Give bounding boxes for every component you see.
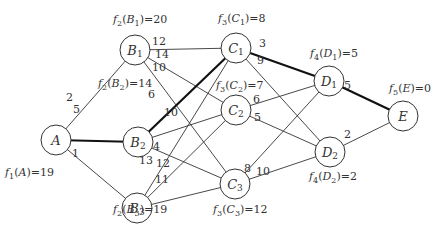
edge-weight-d2-e: 2: [344, 128, 351, 141]
edge-weight-b2-c2: 10: [164, 106, 178, 119]
node-b1: B1: [120, 35, 150, 65]
edge-weight-c2-d1: 6: [253, 93, 260, 106]
node-d1: D1: [314, 66, 344, 96]
shortest-path-diagram: AB1B2B3C1C2C3D1D2E 251121410610413121139…: [0, 0, 439, 231]
edge-weight-c1-d1: 3: [259, 37, 266, 50]
edge-weight-c1-d2: 9: [257, 54, 264, 67]
node-label: A: [50, 133, 60, 148]
edge-weight-c3-d2: 10: [256, 165, 270, 178]
edge-weight-a-b2: 5: [73, 103, 80, 116]
edge-weight-b3-c3: 11: [155, 173, 169, 186]
labels-layer: 2511214106104131211396581052f1(A)=19f2(B…: [4, 12, 431, 218]
f-value-d2: f4(D2)=2: [308, 170, 357, 185]
edge-weight-c3-d1: 8: [244, 162, 251, 175]
nodes-layer: AB1B2B3C1C2C3D1D2E: [41, 33, 418, 223]
node-label: E: [397, 109, 408, 124]
edge-weight-b1-c1: 12: [152, 35, 166, 48]
node-e: E: [388, 101, 418, 131]
node-c1: C1: [221, 33, 251, 63]
edge-weight-b1-c2: 14: [155, 48, 169, 61]
f-value-b3: f2(B3)=19: [112, 203, 167, 218]
node-d2: D2: [315, 137, 345, 167]
f-value-c3: f3(C3)=12: [212, 203, 268, 218]
edge-weight-b3-c2: 12: [156, 157, 170, 170]
f-value-b1: f2(B1)=20: [112, 13, 167, 28]
node-a: A: [41, 125, 71, 155]
f-value-d1: f4(D1)=5: [309, 47, 358, 62]
edge-weight-a-b3: 1: [72, 147, 79, 160]
f-value-b2: f2(B2)=14: [97, 77, 152, 92]
f-value-e: f5(E)=0: [388, 82, 431, 97]
edge-weight-a-b1: 2: [66, 91, 73, 104]
graph-canvas: AB1B2B3C1C2C3D1D2E 251121410610413121139…: [0, 0, 439, 231]
edge-weight-b1-c3: 10: [152, 61, 166, 74]
node-b2: B2: [123, 127, 153, 157]
f-value-c2: f3(C2)=7: [215, 79, 264, 94]
f-value-c1: f3(C1)=8: [217, 12, 266, 27]
edge-weight-b2-c3: 4: [153, 140, 160, 153]
f-value-a: f1(A)=19: [4, 166, 54, 181]
edge-weight-d1-e: 5: [344, 79, 351, 92]
node-c2: C2: [221, 95, 251, 125]
edge-weight-b3-c1: 13: [139, 154, 153, 167]
edge-weight-c2-d2: 5: [254, 111, 261, 124]
